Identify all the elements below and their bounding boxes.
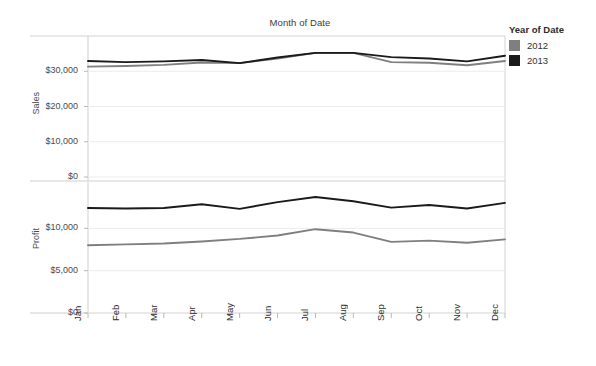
visualization-canvas: Month of Date Year of Date 2012 2013 Sal… bbox=[0, 0, 596, 366]
y-axis-tick-label: $5,000 bbox=[22, 265, 78, 275]
y-axis-tick-label: $20,000 bbox=[22, 101, 78, 111]
x-axis-tick-label: Jan bbox=[72, 306, 83, 321]
series-line-2012[interactable] bbox=[88, 229, 505, 245]
x-axis-tick-label: Oct bbox=[413, 306, 424, 321]
x-axis-tick-label: Nov bbox=[451, 304, 462, 321]
legend-item-2013[interactable]: 2013 bbox=[509, 55, 595, 66]
x-axis-tick-label: Sep bbox=[375, 304, 386, 321]
y-axis-tick-label: $30,000 bbox=[22, 65, 78, 75]
plot-area bbox=[0, 0, 596, 366]
y-axis-tick-label: $0 bbox=[22, 307, 78, 317]
legend-title: Year of Date bbox=[509, 24, 595, 35]
x-axis-tick-label: Mar bbox=[148, 305, 159, 321]
y-axis-tick-label: $10,000 bbox=[22, 136, 78, 146]
x-axis-tick-label: Feb bbox=[110, 305, 121, 321]
legend-swatch-icon bbox=[509, 40, 520, 51]
x-axis-tick-label: Aug bbox=[337, 304, 348, 321]
y-axis-tick-label: $0 bbox=[22, 171, 78, 181]
y-axis-tick-label: $10,000 bbox=[22, 222, 78, 232]
series-line-2013[interactable] bbox=[88, 197, 505, 209]
x-axis-tick-label: Dec bbox=[489, 304, 500, 321]
x-axis-tick-label: Jun bbox=[262, 306, 273, 321]
x-axis-tick-label: Jul bbox=[299, 309, 310, 321]
legend-item-2012[interactable]: 2012 bbox=[509, 40, 595, 51]
series-line-2013[interactable] bbox=[88, 53, 505, 63]
legend-item-label: 2012 bbox=[527, 40, 548, 51]
legend-item-label: 2013 bbox=[527, 55, 548, 66]
x-axis-tick-label: May bbox=[224, 303, 235, 321]
x-axis-tick-label: Apr bbox=[186, 306, 197, 321]
legend: Year of Date 2012 2013 bbox=[509, 24, 595, 70]
page-title: Month of Date bbox=[200, 17, 400, 28]
legend-swatch-icon bbox=[509, 55, 520, 66]
